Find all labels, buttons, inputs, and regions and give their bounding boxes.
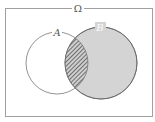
set-b-label: B	[95, 22, 103, 33]
venn-diagram: Ω A B	[0, 0, 155, 122]
set-a-label: A	[52, 27, 60, 38]
universe-label: Ω	[74, 3, 82, 14]
